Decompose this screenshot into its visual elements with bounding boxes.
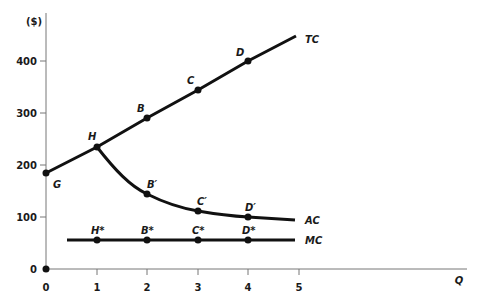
point-b (144, 115, 151, 122)
y-tick-0: 0 (30, 264, 37, 275)
cost-curves-chart: 0 100 200 300 400 ($) 0 1 2 3 4 5 Q G H … (0, 0, 480, 305)
x-tick-4: 4 (245, 282, 252, 293)
point-c (195, 87, 202, 94)
tc-label: TC (305, 34, 320, 45)
point-c-prime (195, 208, 202, 215)
point-c-star (195, 237, 202, 244)
x-ticks: 0 1 2 3 4 5 (43, 269, 303, 293)
label-d-star: D* (242, 225, 256, 236)
ac-label: AC (304, 215, 320, 226)
label-g: G (53, 179, 61, 190)
label-d-prime: D′ (245, 202, 256, 213)
label-c-star: C* (192, 225, 205, 236)
tc-curve (46, 36, 296, 173)
origin-point (43, 266, 50, 273)
x-tick-5: 5 (296, 282, 303, 293)
label-b-prime: B′ (147, 179, 158, 190)
label-h: H (88, 131, 97, 142)
point-b-star (144, 237, 151, 244)
label-h-star: H* (91, 225, 105, 236)
label-d: D (236, 47, 244, 58)
y-axis-label: ($) (26, 16, 42, 27)
y-tick-300: 300 (16, 108, 37, 119)
point-b-prime (144, 191, 151, 198)
point-d-star (245, 237, 252, 244)
x-tick-1: 1 (94, 282, 101, 293)
label-c-prime: C′ (197, 196, 207, 207)
point-d (245, 58, 252, 65)
label-b-star: B* (141, 225, 155, 236)
mc-label: MC (305, 235, 323, 246)
x-axis-label: Q (455, 275, 464, 286)
point-d-prime (245, 214, 252, 221)
y-tick-100: 100 (16, 212, 37, 223)
x-tick-0: 0 (43, 282, 50, 293)
label-b: B (137, 103, 145, 114)
y-tick-200: 200 (16, 160, 37, 171)
label-c: C (187, 75, 195, 86)
y-tick-400: 400 (16, 56, 37, 67)
point-h-star (94, 237, 101, 244)
point-g (43, 170, 50, 177)
x-tick-3: 3 (195, 282, 202, 293)
x-tick-2: 2 (144, 282, 151, 293)
y-ticks: 0 100 200 300 400 (16, 56, 46, 275)
